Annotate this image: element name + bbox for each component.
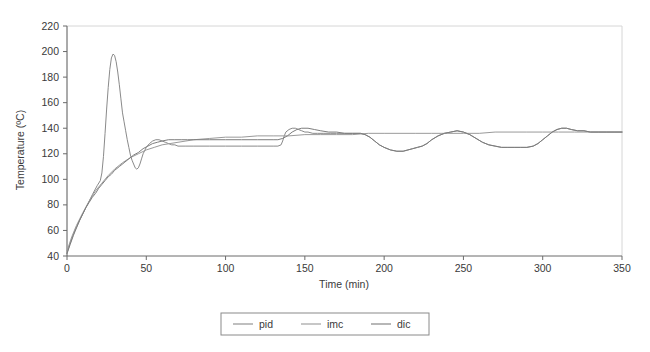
- y-tick-label: 160: [41, 96, 59, 108]
- y-tick-label: 120: [41, 147, 59, 159]
- plot-area-border: [67, 26, 622, 256]
- chart-figure: 406080100120140160180200220 050100150200…: [0, 0, 650, 352]
- y-tick-label: 180: [41, 71, 59, 83]
- chart-legend: pidimcdic: [221, 313, 429, 335]
- y-axis-title: Temperature (ºC): [14, 110, 26, 190]
- x-tick-label: 0: [64, 262, 70, 274]
- legend-label-dic: dic: [397, 318, 410, 330]
- legend-label-pid: pid: [259, 318, 273, 330]
- y-tick-label: 200: [41, 45, 59, 57]
- y-tick-label: 80: [47, 198, 59, 210]
- x-tick-label: 200: [375, 262, 393, 274]
- y-tick-label: 40: [47, 250, 59, 262]
- x-axis-ticks: [67, 256, 622, 260]
- series-line-imc: [67, 132, 622, 251]
- x-tick-label: 250: [455, 262, 473, 274]
- y-tick-label: 220: [41, 20, 59, 32]
- x-tick-label: 350: [613, 262, 631, 274]
- series-line-pid: [67, 54, 622, 253]
- x-tick-label: 50: [140, 262, 152, 274]
- x-tick-label: 150: [296, 262, 314, 274]
- y-tick-label: 60: [47, 224, 59, 236]
- x-axis-title: Time (min): [319, 278, 369, 290]
- y-axis-tick-labels: 406080100120140160180200220: [41, 20, 59, 262]
- data-series-group: [67, 54, 622, 253]
- x-tick-label: 100: [217, 262, 235, 274]
- x-tick-label: 300: [534, 262, 552, 274]
- temperature-line-chart: 406080100120140160180200220 050100150200…: [0, 0, 650, 352]
- y-tick-label: 140: [41, 122, 59, 134]
- y-tick-label: 100: [41, 173, 59, 185]
- x-axis-tick-labels: 050100150200250300350: [64, 262, 631, 274]
- y-axis-ticks: [63, 26, 67, 256]
- series-line-dic: [67, 128, 622, 253]
- legend-label-imc: imc: [327, 318, 343, 330]
- axis-lines: [67, 26, 622, 256]
